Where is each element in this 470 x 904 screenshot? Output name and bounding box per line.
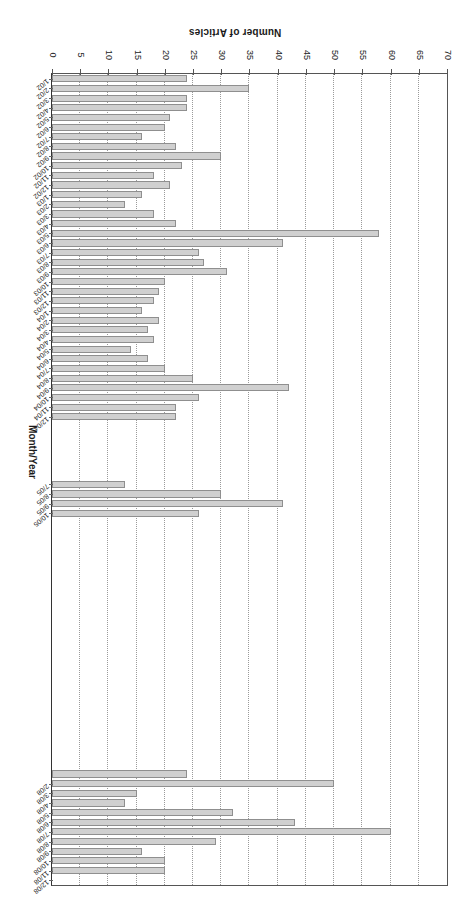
category-axis-tick (49, 842, 53, 843)
category-axis-tick (49, 243, 53, 244)
value-axis-tick (165, 69, 166, 75)
bar (52, 104, 187, 111)
category-axis-tick (49, 282, 53, 283)
category-axis-tick (49, 204, 53, 205)
bar (52, 95, 187, 102)
bar (52, 124, 165, 131)
bar (52, 210, 154, 217)
category-axis-tick (49, 484, 53, 485)
gridline (192, 74, 193, 885)
bar (52, 365, 165, 372)
category-axis-tick (49, 871, 53, 872)
value-axis-ticklabel: 25 (189, 44, 199, 66)
category-axis-tick (49, 359, 53, 360)
value-axis-tick (80, 69, 81, 75)
bar (52, 481, 125, 488)
value-axis-ticklabel: 35 (246, 44, 256, 66)
category-axis-tick (49, 146, 53, 147)
category-axis-tick (49, 340, 53, 341)
category-axis-tick (49, 407, 53, 408)
bar (52, 867, 165, 874)
category-axis-tick (49, 253, 53, 254)
bar (52, 268, 227, 275)
value-axis-tick (391, 69, 392, 75)
category-axis-tick (49, 861, 53, 862)
bar (52, 799, 125, 806)
category-axis-tick (49, 156, 53, 157)
value-axis-tick (447, 69, 448, 75)
category-axis-tick (49, 262, 53, 263)
category-axis-tick (49, 320, 53, 321)
gridline (305, 74, 306, 885)
gridline (164, 74, 165, 885)
category-axis-tick (49, 330, 53, 331)
bar (52, 780, 334, 787)
value-axis-tick (362, 69, 363, 75)
bar (52, 143, 176, 150)
category-axis-tick (49, 378, 53, 379)
value-axis-ticklabel: 55 (358, 44, 368, 66)
category-axis-tick (49, 311, 53, 312)
category-axis-tick (49, 803, 53, 804)
bar (52, 838, 216, 845)
bar (52, 288, 159, 295)
bar (52, 336, 154, 343)
category-axis-tick (49, 301, 53, 302)
bar (52, 297, 154, 304)
category-axis-tick (49, 813, 53, 814)
gridline (249, 74, 250, 885)
category-axis-tick (49, 397, 53, 398)
category-axis-tick (49, 272, 53, 273)
bar (52, 326, 148, 333)
bar (52, 790, 137, 797)
bar (52, 172, 154, 179)
value-axis-ticklabel: 15 (133, 44, 143, 66)
value-axis-ticklabel: 65 (415, 44, 425, 66)
bar (52, 278, 165, 285)
bar (52, 384, 289, 391)
category-axis-tick (49, 349, 53, 350)
category-axis-tick (49, 117, 53, 118)
value-axis-tick (419, 69, 420, 75)
value-axis-ticklabel: 45 (302, 44, 312, 66)
bar (52, 307, 142, 314)
value-axis-tick (250, 69, 251, 75)
value-axis-title: Number of Articles (0, 27, 470, 38)
value-axis-ticklabel: 50 (330, 44, 340, 66)
bar (52, 510, 199, 517)
bar (52, 85, 250, 92)
value-axis-tick (193, 69, 194, 75)
category-axis-tick (49, 137, 53, 138)
category-axis-title: Month/Year (27, 425, 38, 479)
bar (52, 375, 193, 382)
bar (52, 230, 379, 237)
rotated-figure-container: 0510152025303540455055606570 Number of A… (0, 0, 470, 904)
bar (52, 770, 187, 777)
gridline (390, 74, 391, 885)
value-axis-tick (52, 69, 53, 75)
value-axis-tick (278, 69, 279, 75)
value-axis-ticklabel: 70 (443, 44, 453, 66)
bar (52, 819, 295, 826)
bar-chart-figure: 0510152025303540455055606570 Number of A… (0, 0, 470, 904)
value-axis-tick (221, 69, 222, 75)
category-axis-tick (49, 214, 53, 215)
category-axis-tick (49, 832, 53, 833)
value-axis-tick (306, 69, 307, 75)
value-axis-tick (137, 69, 138, 75)
bar (52, 201, 125, 208)
value-axis-ticklabel: 60 (387, 44, 397, 66)
bar (52, 249, 199, 256)
bar (52, 181, 171, 188)
bar (52, 809, 233, 816)
category-axis-tick (49, 417, 53, 418)
category-axis-tick (49, 784, 53, 785)
bar (52, 828, 391, 835)
bar (52, 346, 131, 353)
bar (52, 404, 176, 411)
category-axis-tick (49, 98, 53, 99)
bar (52, 75, 187, 82)
category-axis-tick (49, 185, 53, 186)
category-axis-tick (49, 166, 53, 167)
category-axis-tick (49, 368, 53, 369)
